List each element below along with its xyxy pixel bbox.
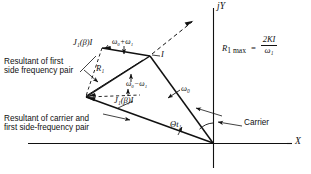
r1-resultant-vector bbox=[86, 60, 143, 96]
leader-resultant-carrier bbox=[103, 114, 130, 120]
annotation-resultant-carrier-line1: Resultant of carrier and bbox=[4, 114, 89, 123]
formula-lhs-subscript: 1 max bbox=[227, 46, 246, 55]
annotation-resultant-carrier-line2: first side-frequency pair bbox=[4, 123, 89, 132]
leader-carrier-upper bbox=[196, 108, 222, 116]
resultant-carrier-vector bbox=[86, 97, 213, 143]
annotation-resultant-first-side-pair-line2: side frequency pair bbox=[4, 66, 73, 75]
carrier-vector bbox=[150, 56, 213, 143]
resultant-carrier-arrowhead bbox=[86, 97, 96, 101]
label-upper-sideband-amplitude: J₁(β)I bbox=[73, 38, 92, 47]
phasor-vector-diagram: jY X R1 max = 2KI ω₁ Resultant of first … bbox=[0, 0, 311, 174]
label-carrier-frequency: ω₀ bbox=[181, 84, 190, 93]
formula-equals: = bbox=[250, 43, 256, 53]
label-r1-resultant: R₁ bbox=[96, 64, 104, 73]
y-axis-label: jY bbox=[217, 1, 225, 11]
instantaneous-vector-dashed bbox=[152, 22, 192, 54]
annotation-carrier: Carrier bbox=[244, 118, 269, 127]
annotation-resultant-first-side-pair-line1: Resultant of first bbox=[4, 57, 63, 66]
formula-numerator: 2KI bbox=[261, 35, 278, 46]
x-axis-label: X bbox=[295, 136, 301, 146]
label-upper-sideband-frequency: ω₀+ω₁ bbox=[112, 38, 133, 46]
formula-fraction: 2KI ω₁ bbox=[261, 35, 278, 56]
leader-total-current bbox=[152, 55, 160, 56]
formula-denominator: ω₁ bbox=[261, 46, 278, 56]
vector-group bbox=[86, 21, 213, 143]
label-lower-sideband-amplitude: J₁(β)I bbox=[114, 96, 133, 105]
label-lower-sideband-frequency: ω₀−ω₁ bbox=[126, 80, 147, 88]
instantaneous-vector-arrowhead bbox=[185, 21, 194, 26]
formula-r1-max: R1 max = 2KI ω₁ bbox=[222, 36, 277, 57]
leader-resultant-first-pair bbox=[80, 56, 96, 72]
leader-carrier-lower bbox=[218, 122, 242, 126]
label-total-current: I bbox=[161, 50, 164, 59]
annotation-resultant-first-side-pair: Resultant of first side frequency pair bbox=[4, 57, 73, 75]
annotation-resultant-carrier: Resultant of carrier and first side-freq… bbox=[4, 114, 89, 132]
axis-group bbox=[28, 8, 292, 168]
diagram-canvas bbox=[0, 0, 311, 174]
label-theta-angle: Θt₁ bbox=[170, 120, 181, 129]
